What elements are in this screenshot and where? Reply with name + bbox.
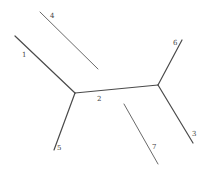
edge-label-2: 2	[97, 95, 101, 103]
edge-4	[40, 12, 98, 69]
edge-6	[158, 40, 182, 85]
edge-5	[54, 93, 75, 150]
edge-label-3: 3	[192, 130, 196, 138]
edge-2	[75, 85, 158, 93]
tree-diagram: 1234567	[0, 0, 208, 172]
edge-label-4: 4	[50, 12, 55, 20]
edge-label-6: 6	[173, 39, 178, 47]
edge-label-7: 7	[152, 143, 156, 151]
edge-7	[124, 104, 158, 164]
edge-3	[158, 85, 193, 143]
edge-label-1: 1	[22, 51, 26, 59]
edges-layer	[15, 12, 193, 164]
edge-label-5: 5	[57, 144, 61, 152]
labels-layer: 1234567	[22, 12, 196, 152]
edge-1	[15, 36, 75, 93]
